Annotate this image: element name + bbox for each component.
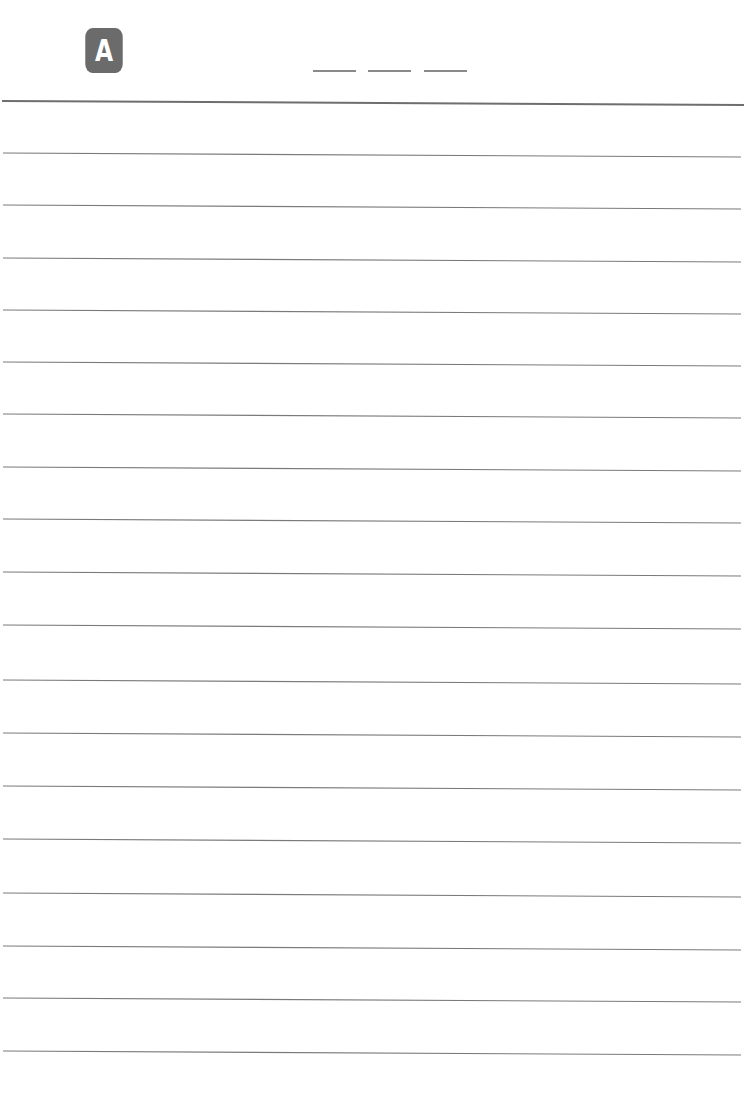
- rule-line-2: [3, 205, 741, 209]
- rule-line-1: [3, 153, 741, 157]
- rule-line-6: [3, 414, 741, 418]
- rule-line-10: [3, 625, 741, 629]
- rule-line-5: [3, 362, 741, 366]
- notebook-page: A: [0, 0, 746, 1113]
- rule-line-4: [3, 310, 741, 314]
- rule-line-8: [3, 519, 741, 523]
- rule-line-7: [3, 467, 741, 471]
- rule-line-13: [3, 786, 741, 790]
- rule-line-15: [3, 893, 741, 897]
- rule-line-9: [3, 572, 741, 576]
- rule-line-16: [3, 946, 741, 950]
- rule-line-11: [3, 680, 741, 684]
- rule-line-3: [3, 258, 741, 262]
- rule-line-14: [3, 839, 741, 843]
- header-rule: [2, 101, 744, 105]
- rule-line-17: [3, 998, 741, 1002]
- rule-lines: [0, 0, 746, 1113]
- rule-line-18: [3, 1051, 741, 1055]
- rule-line-12: [3, 733, 741, 737]
